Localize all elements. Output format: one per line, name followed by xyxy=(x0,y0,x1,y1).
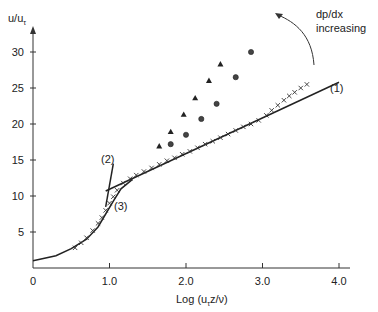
triangle-marker-icon xyxy=(217,61,223,66)
arrow-label-line1: dp/dx xyxy=(316,8,343,20)
label-line-1: (1) xyxy=(330,82,343,94)
y-tick-label: 5 xyxy=(18,226,24,238)
x-marker-icon xyxy=(287,94,291,98)
triangle-marker-icon xyxy=(168,129,174,134)
x-marker-icon xyxy=(115,188,119,192)
x-axis-label: Log (uτz/ν) xyxy=(176,293,228,307)
line-3 xyxy=(33,179,132,260)
line-1 xyxy=(106,82,339,191)
arrow-label-line2: increasing xyxy=(316,22,366,34)
x-ticks: 01.02.03.04.0 xyxy=(30,263,347,287)
y-tick-label: 25 xyxy=(12,82,24,94)
line-2 xyxy=(106,164,114,207)
dpdx-curved-arrow xyxy=(278,15,314,65)
circle-marker-icon xyxy=(183,132,188,137)
triangle-marker-icon xyxy=(192,95,198,100)
data-markers xyxy=(73,49,309,250)
boundary-layer-chart: 01.02.03.04.0 51015202530 u/uτ Log (uτz/… xyxy=(0,0,378,312)
x-tick-label: 1.0 xyxy=(102,275,117,287)
circle-marker-icon xyxy=(214,101,219,106)
axes xyxy=(33,30,350,268)
y-axis-arrow-icon xyxy=(30,26,36,34)
reference-lines xyxy=(33,82,339,261)
x-marker-icon xyxy=(282,98,286,102)
circle-marker-icon xyxy=(248,49,253,54)
arrow-head-icon xyxy=(275,13,283,19)
circle-marker-icon xyxy=(233,75,238,80)
x-marker-icon xyxy=(107,201,111,205)
x-tick-label: 3.0 xyxy=(255,275,270,287)
x-marker-icon xyxy=(292,90,296,94)
y-tick-label: 20 xyxy=(12,118,24,130)
circle-marker-icon xyxy=(199,116,204,121)
label-line-2: (2) xyxy=(101,153,114,165)
y-ticks: 51015202530 xyxy=(12,46,36,238)
x-tick-label: 0 xyxy=(30,275,36,287)
x-marker-icon xyxy=(305,82,309,86)
y-tick-label: 30 xyxy=(12,46,24,58)
x-marker-icon xyxy=(111,195,115,199)
x-marker-icon xyxy=(269,108,273,112)
label-line-3: (3) xyxy=(114,200,127,212)
triangle-marker-icon xyxy=(206,78,212,83)
y-axis-label: u/uτ xyxy=(8,12,26,26)
y-tick-label: 10 xyxy=(12,190,24,202)
triangle-marker-icon xyxy=(181,111,187,116)
y-tick-label: 15 xyxy=(12,154,24,166)
x-marker-icon xyxy=(276,103,280,107)
x-tick-label: 2.0 xyxy=(178,275,193,287)
circle-marker-icon xyxy=(168,142,173,147)
x-marker-icon xyxy=(299,86,303,90)
triangle-marker-icon xyxy=(156,143,162,148)
x-tick-label: 4.0 xyxy=(331,275,346,287)
